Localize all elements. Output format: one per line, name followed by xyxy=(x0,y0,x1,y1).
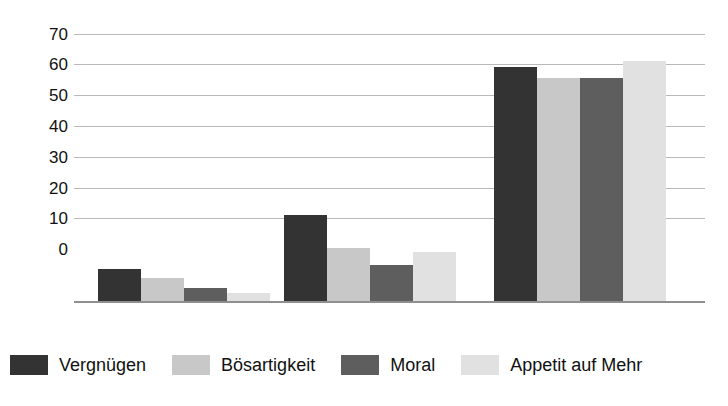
y-tick-label: 0 xyxy=(6,241,68,258)
bar[interactable] xyxy=(623,61,666,303)
bar-chart: 70 60 50 40 30 20 10 0 Vergnügen Bösarti… xyxy=(0,0,728,406)
legend-item-vergnuegen[interactable]: Vergnügen xyxy=(10,355,146,375)
legend-item-appetit-auf-mehr[interactable]: Appetit auf Mehr xyxy=(461,355,642,375)
bar-group xyxy=(284,34,456,303)
y-tick-label: 50 xyxy=(6,87,68,104)
bar[interactable] xyxy=(494,67,537,303)
legend-swatch-icon xyxy=(461,355,499,375)
legend-item-moral[interactable]: Moral xyxy=(341,355,435,375)
y-tick-label: 20 xyxy=(6,180,68,197)
plot-area xyxy=(74,34,705,303)
bar[interactable] xyxy=(413,252,456,303)
y-tick-label: 60 xyxy=(6,56,68,73)
legend-swatch-icon xyxy=(10,355,48,375)
bar[interactable] xyxy=(141,278,184,303)
y-axis-tick-labels: 70 60 50 40 30 20 10 0 xyxy=(0,34,68,303)
bar[interactable] xyxy=(580,78,623,303)
chart-title-remnant xyxy=(0,0,728,6)
legend-swatch-icon xyxy=(172,355,210,375)
legend-item-label: Appetit auf Mehr xyxy=(510,355,642,375)
legend-item-label: Bösartigkeit xyxy=(221,355,315,375)
bar-group xyxy=(98,34,270,303)
bar[interactable] xyxy=(284,215,327,303)
legend-item-label: Moral xyxy=(390,355,435,375)
bar-group xyxy=(494,34,666,303)
legend-item-boesartigkeit[interactable]: Bösartigkeit xyxy=(172,355,315,375)
legend-item-label: Vergnügen xyxy=(59,355,146,375)
bar[interactable] xyxy=(537,78,580,303)
y-tick-label: 70 xyxy=(6,26,68,43)
y-tick-label: 40 xyxy=(6,118,68,135)
y-tick-label: 30 xyxy=(6,149,68,166)
bar[interactable] xyxy=(98,269,141,303)
y-tick-label: 10 xyxy=(6,210,68,227)
bar[interactable] xyxy=(327,248,370,303)
x-axis-line xyxy=(74,301,705,303)
legend: Vergnügen Bösartigkeit Moral Appetit auf… xyxy=(10,345,722,385)
legend-swatch-icon xyxy=(341,355,379,375)
bar[interactable] xyxy=(370,265,413,303)
